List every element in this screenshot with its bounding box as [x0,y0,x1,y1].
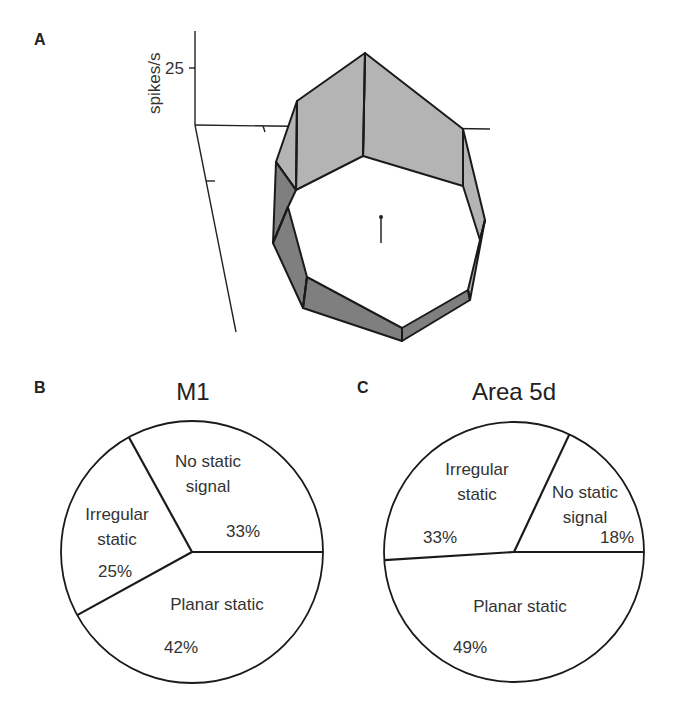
pie-slice-label: static [97,530,137,549]
ring-facet [303,277,402,341]
pie-slice-label: Irregular [85,505,149,524]
figure: A 25 spikes/s B M1 No staticsignal33%Irr… [0,0,677,710]
ring-facet [402,290,470,341]
center-pin-dot [379,215,383,219]
pie-slice-value: 33% [423,528,457,547]
panel-b: B M1 No staticsignal33%Irregularstatic25… [34,378,323,683]
pie-chart-m1: No staticsignal33%Irregularstatic25%Plan… [61,421,323,683]
pie-slice-value: 42% [164,638,198,657]
z-axis-label: spikes/s [145,53,164,114]
pie-slice-value: 49% [453,638,487,657]
panel-c: C Area 5d No staticsignal18%Irregularsta… [357,378,644,682]
pie-slice-value: 18% [600,528,634,547]
x-axis-tick [263,126,265,132]
firing-rate-ring [273,53,485,341]
pie-slice-label: Planar static [170,595,264,614]
panel-c-letter: C [357,379,369,396]
y-axis [195,125,236,332]
pie-slice-label: No static [175,452,242,471]
ring-facet [296,53,365,190]
pie-slice-label: signal [563,508,607,527]
pie-slice [384,552,644,682]
panel-b-letter: B [34,379,46,396]
pie-slice-label: Irregular [445,460,509,479]
pie-slice-label: static [457,485,497,504]
pie-slice-label: No static [552,483,619,502]
pie-slice-label: Planar static [473,597,567,616]
pie-c-title: Area 5d [472,378,556,405]
pie-slice-value: 25% [98,562,132,581]
pie-slice-value: 33% [226,522,260,541]
pie-slice-label: signal [186,477,230,496]
center-pin [379,215,383,243]
pie-b-title: M1 [176,378,209,405]
z-tick-label: 25 [165,59,184,78]
ring-edge [296,101,297,190]
ring-facet [363,53,463,186]
ring-facet [463,129,485,240]
panel-a: A 25 spikes/s [34,31,490,341]
pie-chart-area-5d: No staticsignal18%Irregularstatic33%Plan… [384,422,644,682]
panel-a-letter: A [34,31,46,48]
